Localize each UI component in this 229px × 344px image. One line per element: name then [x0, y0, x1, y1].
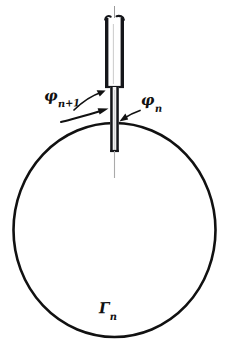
figure-root: φn+1 φn Γn — [0, 0, 229, 344]
label-phi-n-plus-1: φn+1 — [44, 87, 80, 107]
probe-body-left-wall — [105, 18, 108, 88]
leader-arrow-phi-next — [61, 111, 102, 122]
label-phi-n-symbol: φ — [141, 91, 155, 109]
label-phi-n-plus-1-subscript: n+1 — [58, 97, 81, 109]
probe-shaft-right-wall — [116, 87, 119, 152]
label-gamma-n-subscript: n — [110, 311, 117, 322]
probe-body-right-wall — [121, 18, 124, 88]
label-phi-n: φn — [141, 93, 162, 112]
label-gamma-n: Γn — [99, 301, 117, 319]
diagram-canvas — [0, 0, 229, 344]
label-phi-n-plus-1-symbol: φ — [43, 86, 58, 105]
probe-shaft-left-wall — [110, 87, 113, 152]
label-phi-n-subscript: n — [155, 103, 162, 114]
label-gamma-n-symbol: Γ — [99, 299, 110, 317]
leader-arrow-phi-next-head — [98, 108, 109, 114]
leader-arrow-phi-n-head — [119, 114, 128, 122]
